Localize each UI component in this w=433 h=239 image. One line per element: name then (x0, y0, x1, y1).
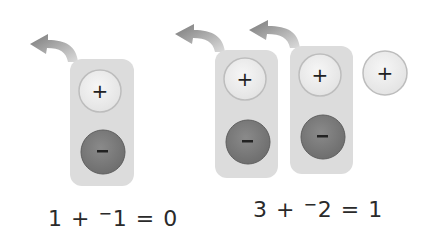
negative-counter (226, 120, 270, 164)
result: 1 (368, 197, 383, 222)
equals-sign: = (341, 197, 360, 222)
negative-sign: − (98, 204, 112, 223)
extra-positive-counter: + (363, 51, 407, 95)
plus-icon: + (92, 79, 109, 103)
plus-operator: + (276, 197, 295, 222)
remove-arrow-icon (30, 34, 78, 62)
negative-sign: − (303, 195, 317, 214)
remove-arrow-icon (249, 20, 300, 48)
positive-counter: + (299, 54, 341, 96)
negative-counter (81, 130, 125, 174)
plus-icon: + (377, 61, 394, 85)
addend-b: 2 (318, 197, 333, 222)
equation-right: 3 + −2 = 1 (253, 197, 383, 222)
negative-counter (301, 115, 345, 159)
positive-counter: + (79, 70, 121, 112)
equals-sign: = (136, 206, 155, 231)
addend-a: 3 (253, 197, 268, 222)
zero-pair-1: + (30, 34, 134, 186)
zero-pair-2: + (175, 24, 278, 178)
equation-left: 1 + −1 = 0 (48, 206, 178, 231)
remove-arrow-icon (175, 24, 225, 52)
minus-icon (97, 150, 108, 153)
minus-icon (242, 140, 253, 143)
positive-counter: + (224, 58, 266, 100)
plus-operator: + (71, 206, 90, 231)
addend-b: 1 (113, 206, 128, 231)
minus-icon (317, 135, 328, 138)
addend-a: 1 (48, 206, 63, 231)
result: 0 (163, 206, 178, 231)
plus-icon: + (237, 67, 254, 91)
plus-icon: + (312, 63, 329, 87)
